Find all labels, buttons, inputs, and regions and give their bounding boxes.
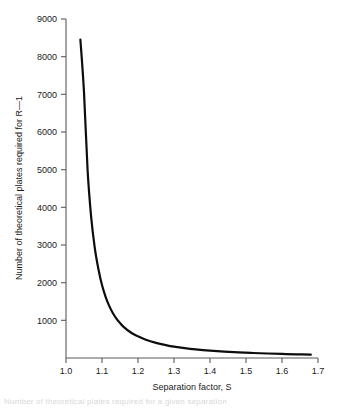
chart-svg: 9000 8000 7000 6000 5000 4000 3000 2000 …: [0, 0, 340, 412]
y-tick-label: 6000: [37, 127, 57, 137]
y-tick-label: 5000: [37, 165, 57, 175]
y-tick-label: 9000: [37, 14, 57, 24]
y-tick-label: 2000: [37, 278, 57, 288]
y-tick-label: 7000: [37, 90, 57, 100]
x-tick-label: 1.4: [204, 366, 217, 376]
x-axis-title: Separation factor, S: [152, 382, 231, 392]
x-tick-label: 1.0: [60, 366, 73, 376]
y-axis-tick-labels: 9000 8000 7000 6000 5000 4000 3000 2000 …: [37, 14, 57, 325]
y-tick-label: 8000: [37, 52, 57, 62]
x-tick-label: 1.7: [312, 366, 325, 376]
x-tick-label: 1.1: [96, 366, 109, 376]
y-axis-title: Number of theoretical plates required fo…: [14, 96, 24, 280]
y-tick-label: 1000: [37, 316, 57, 326]
x-tick-label: 1.5: [240, 366, 253, 376]
y-tick-label: 3000: [37, 240, 57, 250]
x-tick-label: 1.3: [168, 366, 181, 376]
chart-figure: 9000 8000 7000 6000 5000 4000 3000 2000 …: [0, 0, 340, 412]
y-tick-label: 4000: [37, 203, 57, 213]
x-tick-label: 1.6: [276, 366, 289, 376]
x-tick-label: 1.2: [132, 366, 145, 376]
